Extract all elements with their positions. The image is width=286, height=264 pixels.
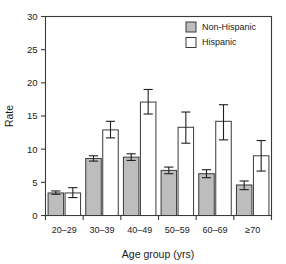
chart-legend: Non-HispanicHispanic	[186, 22, 257, 48]
bars-layer	[48, 89, 269, 215]
bar-non-hispanic	[86, 158, 102, 215]
bar-non-hispanic	[48, 193, 64, 216]
bar-non-hispanic	[199, 174, 215, 216]
bar-non-hispanic	[123, 157, 139, 215]
x-axis-category-labels: 20–2930–3940–4950–5960–69≥70	[52, 225, 260, 235]
x-category-label: 40–49	[127, 225, 152, 235]
y-axis-ticks: 051015202530	[27, 11, 46, 221]
x-category-label: 50–59	[165, 225, 190, 235]
bar-non-hispanic	[161, 170, 177, 215]
y-tick-label: 0	[32, 210, 37, 221]
y-tick-label: 20	[27, 77, 38, 88]
bar-chart: 051015202530 Rate 20–2930–3940–4950–5960…	[0, 0, 286, 264]
x-category-label: 20–29	[52, 225, 77, 235]
chart-container: 051015202530 Rate 20–2930–3940–4950–5960…	[0, 0, 286, 264]
legend-label: Non-Hispanic	[202, 22, 257, 32]
x-category-label: 30–39	[89, 225, 114, 235]
y-tick-label: 30	[27, 11, 38, 22]
x-axis-title: Age group (yrs)	[122, 248, 194, 260]
y-tick-label: 25	[27, 44, 38, 55]
y-tick-label: 5	[32, 177, 37, 188]
bar-hispanic	[140, 102, 156, 215]
x-category-label: ≥70	[245, 225, 260, 235]
y-tick-label: 10	[27, 144, 38, 155]
x-category-label: 60–69	[202, 225, 227, 235]
legend-swatch	[186, 38, 196, 48]
legend-label: Hispanic	[202, 37, 237, 47]
x-axis-ticks	[46, 216, 272, 221]
bar-hispanic	[103, 130, 119, 216]
legend-swatch	[186, 22, 196, 32]
y-tick-label: 15	[27, 110, 38, 121]
y-axis-title: Rate	[3, 105, 15, 127]
